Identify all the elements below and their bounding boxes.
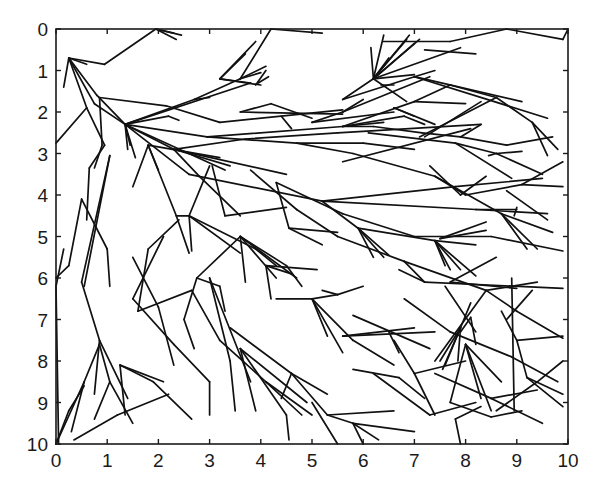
branch-segment: [230, 328, 291, 374]
branch-segment: [491, 411, 522, 417]
branch-segment: [532, 122, 558, 149]
branch-segment: [322, 201, 358, 228]
branch-segment: [440, 230, 486, 238]
branch-segment: [322, 187, 455, 202]
branch-segment: [512, 278, 515, 411]
branch-segment: [153, 382, 191, 419]
branch-segment: [507, 137, 553, 145]
branch-segment: [197, 237, 241, 279]
y-tick-label: 7: [37, 310, 48, 331]
branch-segment: [174, 344, 210, 381]
branch-segment: [425, 102, 481, 137]
branch-segment: [501, 214, 537, 249]
branch-segment: [322, 201, 476, 209]
branch-segment: [199, 176, 240, 216]
x-tick-label: 1: [102, 450, 113, 471]
y-tick-label: 10: [27, 434, 48, 455]
branch-segment: [297, 210, 338, 237]
branch-segment: [517, 336, 563, 340]
branch-segment: [69, 58, 105, 64]
branch-segment: [94, 145, 102, 168]
branch-segment: [240, 104, 271, 112]
y-tick-label: 6: [37, 268, 48, 289]
branch-segment: [197, 278, 220, 286]
branch-segment: [184, 320, 194, 349]
branch-segment: [496, 98, 532, 123]
branch-segment: [322, 290, 337, 294]
branch-segment: [225, 207, 286, 215]
branch-segment: [176, 216, 189, 253]
branch-segment: [371, 48, 374, 79]
branch-segment: [69, 199, 82, 266]
branch-segment: [507, 191, 548, 220]
branch-segment: [435, 241, 476, 245]
branch-segment: [240, 349, 255, 411]
branch-segment: [489, 154, 497, 156]
x-tick-label: 2: [153, 450, 164, 471]
branch-segment: [69, 58, 95, 104]
branch-segment: [148, 220, 179, 249]
tree-network-chart: 012345678910 012345678910: [0, 0, 596, 501]
branch-segment: [512, 357, 558, 382]
branch-segment: [507, 29, 563, 39]
y-tick-label: 4: [37, 185, 48, 206]
branch-segment: [450, 29, 506, 42]
branch-segment: [148, 145, 176, 216]
branch-segment: [353, 340, 394, 365]
branch-segment: [281, 116, 291, 128]
branch-segment: [69, 58, 87, 108]
branch-segment: [230, 361, 235, 411]
branch-segment: [466, 344, 492, 410]
branch-segment: [435, 374, 491, 399]
branch-segment: [82, 199, 108, 249]
branch-segment: [450, 257, 496, 282]
branch-segment: [496, 151, 522, 153]
branch-segment: [266, 382, 312, 415]
branch-segment: [297, 143, 353, 153]
branch-segment: [138, 249, 148, 311]
branch-segment: [56, 108, 87, 143]
x-axis: 012345678910: [51, 29, 579, 471]
branch-segment: [276, 183, 343, 214]
branch-segment: [496, 154, 542, 175]
branch-segment: [184, 278, 197, 320]
branch-segment: [158, 307, 173, 365]
branch-segment: [343, 129, 471, 162]
x-tick-label: 0: [51, 450, 62, 471]
branch-segment: [435, 241, 476, 276]
branch-segment: [94, 382, 109, 419]
branch-segment: [327, 415, 353, 423]
branch-segment: [343, 79, 374, 100]
branch-segment: [56, 249, 64, 286]
branch-segment: [414, 374, 435, 416]
branch-segment: [220, 54, 246, 79]
branch-segment: [312, 295, 338, 299]
branch-segment: [363, 143, 414, 149]
branch-segment: [404, 116, 424, 124]
branch-segment: [312, 403, 338, 445]
branch-segment: [425, 50, 476, 54]
branch-segment: [64, 58, 69, 87]
branch-segment: [120, 365, 164, 382]
branch-segment: [276, 183, 289, 229]
branch-segment: [414, 102, 465, 104]
branch-segment: [292, 374, 328, 395]
branch-segment: [522, 185, 563, 187]
branch-segment: [507, 290, 533, 319]
branch-segment: [240, 349, 307, 403]
x-tick-label: 8: [460, 450, 471, 471]
branch-segment: [192, 290, 220, 340]
branch-segment: [338, 286, 364, 294]
branch-segment: [414, 71, 435, 77]
branch-segment: [343, 77, 430, 112]
branch-segment: [353, 154, 435, 177]
branch-segment: [517, 340, 527, 377]
branch-segment: [133, 145, 148, 187]
x-tick-label: 6: [358, 450, 369, 471]
branch-segment: [89, 145, 104, 168]
y-tick-label: 1: [37, 61, 48, 82]
branch-segment: [74, 415, 118, 440]
branch-segment: [414, 77, 547, 119]
branch-segment: [189, 174, 322, 201]
branch-segment: [105, 29, 156, 64]
